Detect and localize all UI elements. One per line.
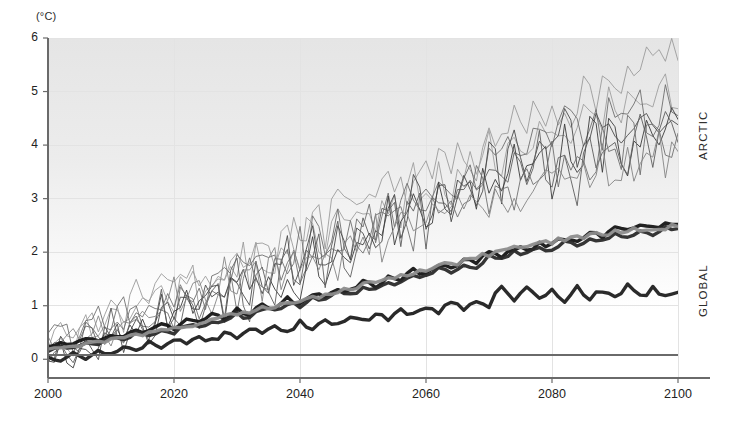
chart-canvas [0,0,734,435]
y-tick-label-2: 2 [16,244,38,258]
x-tick-label-2060: 2060 [396,387,456,401]
global-group-label: GLOBAL [697,264,709,317]
y-tick-label-5: 5 [16,84,38,98]
arctic-group-label: ARCTIC [697,111,709,160]
x-axis-ticks [48,378,678,383]
y-tick-label-1: 1 [16,298,38,312]
y-tick-label-0: 0 [16,351,38,365]
y-axis-unit-label: (°C) [36,10,56,22]
y-tick-label-3: 3 [16,191,38,205]
x-tick-label-2080: 2080 [522,387,582,401]
x-tick-label-2020: 2020 [144,387,204,401]
y-axis-ticks [43,38,48,359]
x-tick-label-2000: 2000 [18,387,78,401]
x-tick-label-2040: 2040 [270,387,330,401]
y-tick-label-4: 4 [16,137,38,151]
y-tick-label-6: 6 [16,30,38,44]
temperature-projection-chart: (°C) 0123456 200020202040206020802100 AR… [0,0,734,435]
x-tick-label-2100: 2100 [648,387,708,401]
